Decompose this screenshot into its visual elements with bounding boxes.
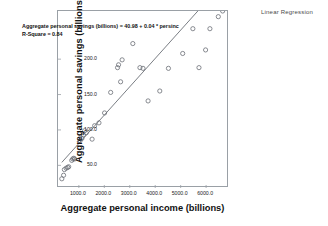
chart-caption: Linear Regression <box>261 9 313 15</box>
x-tick-label: 6000.0 <box>197 190 213 196</box>
x-tick-label: 2000.0 <box>95 190 111 196</box>
x-tick-label: 4000.0 <box>146 190 162 196</box>
x-axis-title: Aggregate personal income (billions) <box>57 203 228 213</box>
x-tick-label: 5000.0 <box>172 190 188 196</box>
x-tick-label: 1000.0 <box>70 190 86 196</box>
regression-equation: Aggregate personal savings (billions) = … <box>22 22 179 30</box>
regression-annotation: Aggregate personal savings (billions) = … <box>22 22 179 38</box>
plot-area: Aggregate personal savings (billions) = … <box>57 10 228 187</box>
x-tick-label: 3000.0 <box>121 190 137 196</box>
regression-r-square: R-Square = 0.84 <box>22 30 179 38</box>
linear-regression-chart: Linear Regression Aggregate personal sav… <box>0 0 328 226</box>
